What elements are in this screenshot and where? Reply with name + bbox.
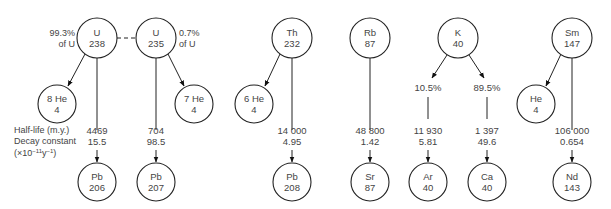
- legend-decay-constant: Decay constant: [14, 136, 77, 146]
- abundance-u238-line2: of U: [58, 39, 75, 49]
- isotope-node-k40: K40: [438, 18, 478, 58]
- isotope-mass: 4: [191, 104, 196, 115]
- decay-constant-k40-ca: 49.6: [478, 136, 497, 147]
- isotope-node-sm147: Sm147: [552, 18, 592, 58]
- decay-constant-k40-ar: 5.81: [419, 136, 438, 147]
- arrow-sm147-to-he: [546, 54, 561, 86]
- decay-constant-u235: 98.5: [147, 136, 166, 147]
- isotope-element: Nd: [566, 171, 578, 182]
- isotope-element: 6 He: [244, 93, 264, 104]
- isotope-mass: 4: [54, 104, 59, 115]
- isotope-mass: 208: [284, 182, 300, 193]
- isotope-mass: 232: [284, 38, 300, 49]
- isotope-node-ar40: Ar40: [409, 163, 447, 201]
- decay-constant-rb87: 1.42: [361, 136, 380, 147]
- isotope-node-he8: 8 He4: [38, 85, 76, 123]
- isotope-node-ca40: Ca40: [468, 163, 506, 201]
- isotope-element: Ar: [423, 171, 433, 182]
- decay-constant-sm147: 0.654: [560, 136, 584, 147]
- decay-scheme-diagram: 10.5% 89.5% 99.3% of U 0.7% of U Half-li…: [0, 0, 611, 209]
- isotope-node-sr87: Sr87: [351, 163, 389, 201]
- isotope-node-pb206: Pb206: [78, 163, 116, 201]
- isotope-element: Pb: [286, 171, 298, 182]
- isotope-element: Pb: [91, 171, 103, 182]
- isotope-node-pb208: Pb208: [273, 163, 311, 201]
- isotope-mass: 87: [365, 182, 376, 193]
- isotope-mass: 4: [251, 104, 256, 115]
- legend-half-life: Half-life (m.y.): [14, 125, 69, 135]
- half-life-k40-ar: 11 930: [414, 125, 442, 136]
- isotope-element: U: [94, 27, 101, 38]
- isotope-node-he6: 6 He4: [235, 85, 273, 123]
- isotope-element: Th: [286, 27, 297, 38]
- half-life-th232: 14 000: [277, 125, 306, 136]
- isotope-mass: 143: [564, 182, 580, 193]
- isotope-mass: 40: [423, 182, 434, 193]
- isotope-nodes: U238U2358 He47 He4Pb206Pb207Th2326 He4Pb…: [38, 18, 592, 201]
- isotope-node-he7: 7 He4: [175, 85, 213, 123]
- isotope-element: 7 He: [184, 93, 204, 104]
- branch-pct-ca: 89.5%: [474, 82, 501, 93]
- arrow-u238-to-he: [68, 54, 85, 86]
- isotope-element: He: [530, 93, 542, 104]
- decay-values: 4469 15.5 704 98.5 14 000 4.95 48 800 1.…: [86, 125, 589, 147]
- isotope-mass: 4: [533, 104, 538, 115]
- legend-units: (×10−11y−1): [14, 148, 56, 158]
- isotope-element: Sr: [365, 171, 375, 182]
- half-life-u235: 704: [148, 125, 164, 136]
- isotope-element: K: [455, 27, 462, 38]
- abundance-u235-line2: of U: [179, 39, 196, 49]
- isotope-mass: 147: [564, 38, 580, 49]
- half-life-u238: 4469: [86, 125, 107, 136]
- isotope-mass: 87: [365, 38, 376, 49]
- half-life-k40-ca: 1 397: [475, 125, 499, 136]
- half-life-rb87: 48 800: [355, 125, 384, 136]
- isotope-element: Ca: [481, 171, 494, 182]
- abundance-u238-line1: 99.3%: [49, 28, 75, 38]
- isotope-node-rb87: Rb87: [350, 18, 390, 58]
- isotope-element: 8 He: [47, 93, 67, 104]
- isotope-mass: 207: [148, 182, 164, 193]
- arrow-k40-branch-ar: [432, 55, 447, 78]
- isotope-node-u238: U238: [77, 18, 117, 58]
- isotope-element: Rb: [364, 27, 376, 38]
- isotope-mass: 206: [89, 182, 105, 193]
- arrow-u235-to-he: [168, 54, 184, 86]
- isotope-mass: 238: [89, 38, 105, 49]
- isotope-node-pb207: Pb207: [137, 163, 175, 201]
- isotope-element: Pb: [150, 171, 162, 182]
- decay-constant-u238: 15.5: [88, 136, 107, 147]
- arrow-k40-branch-ca: [469, 55, 484, 78]
- branch-pct-ar: 10.5%: [415, 82, 442, 93]
- abundance-u235-line1: 0.7%: [179, 28, 200, 38]
- isotope-element: Sm: [565, 27, 579, 38]
- isotope-node-u235: U235: [136, 18, 176, 58]
- isotope-node-he4: He4: [517, 85, 555, 123]
- decay-constant-th232: 4.95: [283, 136, 302, 147]
- arrow-th232-to-he: [265, 54, 280, 86]
- isotope-mass: 40: [453, 38, 464, 49]
- isotope-node-nd143: Nd143: [553, 163, 591, 201]
- isotope-node-th232: Th232: [272, 18, 312, 58]
- isotope-element: U: [153, 27, 160, 38]
- isotope-mass: 40: [482, 182, 493, 193]
- isotope-mass: 235: [148, 38, 164, 49]
- half-life-sm147: 106 000: [555, 125, 589, 136]
